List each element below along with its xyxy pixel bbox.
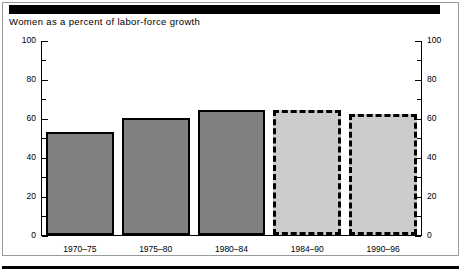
- y-tick-left-0: [42, 236, 48, 237]
- bar-1970-75: [46, 132, 114, 235]
- y-tick-minor-right-30: [417, 177, 421, 178]
- bar-1980-84: [198, 110, 266, 235]
- y-tick-label-left-0: 0: [31, 230, 36, 240]
- top-rule-divider: [9, 5, 440, 14]
- y-tick-minor-left-10: [42, 216, 46, 217]
- y-tick-label-right-20: 20: [427, 191, 436, 201]
- y-axis-right: [421, 41, 422, 236]
- chart-figure: Women as a percent of labor-force growth…: [0, 0, 463, 277]
- bar-group: [42, 41, 421, 235]
- y-tick-minor-right-10: [417, 216, 421, 217]
- bar-1975-80: [122, 118, 190, 235]
- y-tick-right-0: [415, 236, 421, 237]
- bar-slot: [42, 41, 118, 235]
- chart-title: Women as a percent of labor-force growth: [9, 16, 200, 27]
- bottom-rule-divider: [2, 266, 459, 269]
- bar-slot: [269, 41, 345, 235]
- y-tick-minor-right-70: [417, 99, 421, 100]
- bar-slot: [118, 41, 194, 235]
- y-tick-label-left-60: 60: [27, 113, 36, 123]
- y-tick-right-40: [415, 158, 421, 159]
- bar-slot: [345, 41, 421, 235]
- plot-area: 002020404060608080100100: [41, 41, 422, 236]
- x-tick-label-0: 1970–75: [42, 244, 118, 254]
- y-tick-right-80: [415, 80, 421, 81]
- x-tick-label-3: 1984–90: [269, 244, 345, 254]
- bar-slot: [194, 41, 270, 235]
- y-tick-minor-left-50: [42, 138, 46, 139]
- y-tick-label-left-80: 80: [27, 74, 36, 84]
- x-axis: [41, 235, 422, 236]
- y-tick-left-40: [42, 158, 48, 159]
- y-tick-label-right-80: 80: [427, 74, 436, 84]
- y-tick-label-left-100: 100: [22, 35, 36, 45]
- bar-1984-90: [273, 110, 341, 235]
- x-tick-label-4: 1990–96: [345, 244, 421, 254]
- y-tick-minor-right-90: [417, 60, 421, 61]
- y-tick-minor-left-70: [42, 99, 46, 100]
- x-tick-label-1: 1975–80: [118, 244, 194, 254]
- y-tick-label-right-100: 100: [427, 35, 441, 45]
- y-tick-left-20: [42, 197, 48, 198]
- y-tick-label-left-40: 40: [27, 152, 36, 162]
- y-tick-left-60: [42, 119, 48, 120]
- y-tick-label-right-0: 0: [427, 230, 432, 240]
- y-tick-label-right-60: 60: [427, 113, 436, 123]
- bar-1990-96: [349, 114, 417, 235]
- y-tick-minor-right-50: [417, 138, 421, 139]
- y-tick-right-60: [415, 119, 421, 120]
- y-tick-label-left-20: 20: [27, 191, 36, 201]
- y-tick-left-100: [42, 41, 48, 42]
- y-tick-right-100: [415, 41, 421, 42]
- y-tick-right-20: [415, 197, 421, 198]
- y-tick-minor-left-30: [42, 177, 46, 178]
- y-tick-left-80: [42, 80, 48, 81]
- y-tick-minor-left-90: [42, 60, 46, 61]
- x-tick-label-2: 1980–84: [194, 244, 270, 254]
- y-tick-label-right-40: 40: [427, 152, 436, 162]
